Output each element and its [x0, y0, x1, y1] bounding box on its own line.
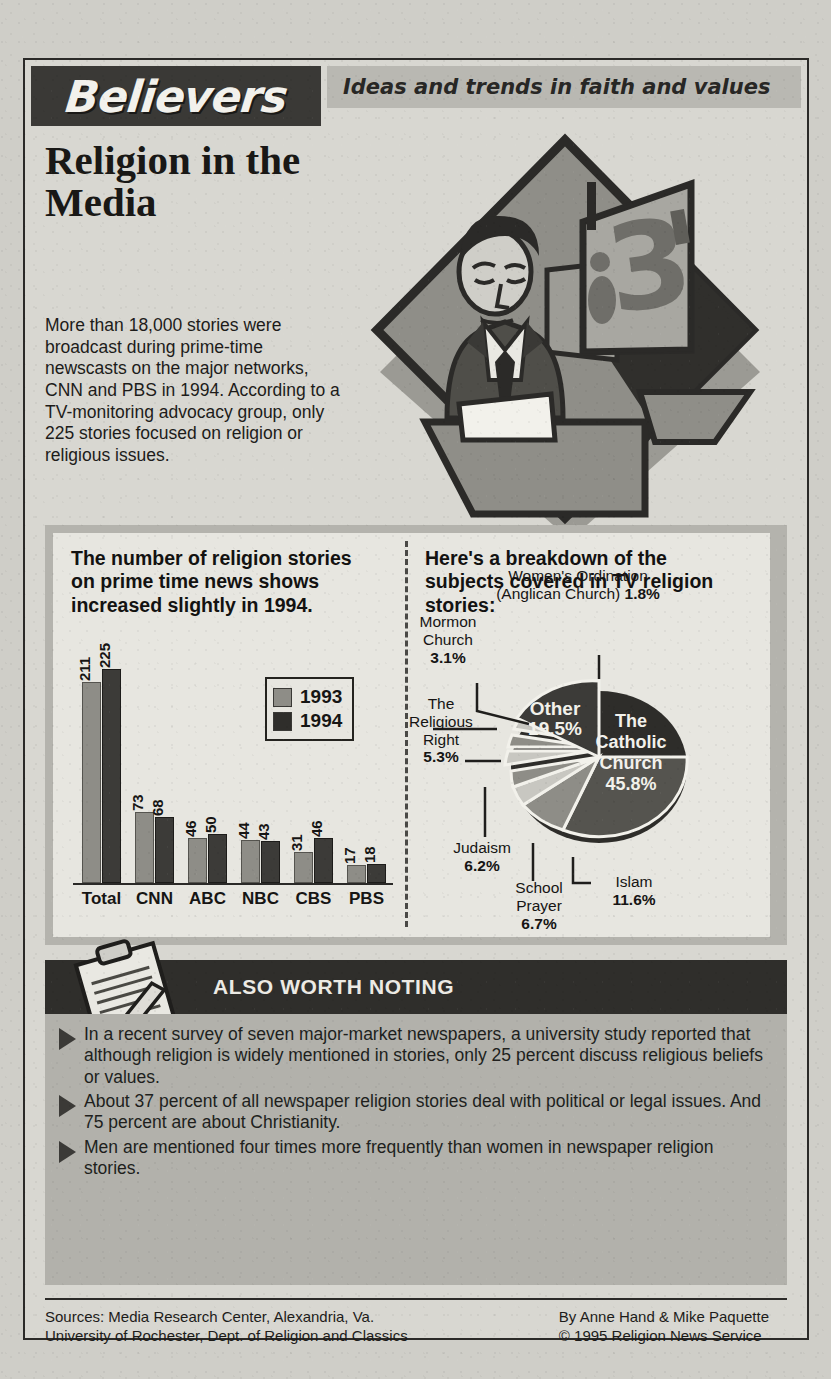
bar-value-1993-nbc: 44 [236, 822, 251, 839]
bar-groups: 211 225 73 68 46 [75, 671, 393, 883]
page-title: Religion in the Media [45, 140, 345, 224]
bar-1993-nbc: 44 [241, 840, 260, 883]
x-label-total: Total [75, 889, 128, 913]
lede-paragraph: More than 18,000 stories were broadcast … [45, 315, 345, 467]
bar-1994-abc: 50 [208, 834, 227, 883]
bar-chart-axis [73, 883, 393, 885]
believers-logo: Believers [31, 66, 321, 126]
x-label-nbc: NBC [234, 889, 287, 913]
bar-group-pbs: 17 18 [340, 864, 393, 883]
pie-label-womens-ordination: Women's Ordination (Anglican Church) 1.8… [453, 567, 703, 603]
copyright: © 1995 Religion News Service [559, 1327, 762, 1344]
masthead-kicker: Ideas and trends in faith and values [327, 66, 801, 108]
pie-label-religious-right: The Religious Right 5.3% [399, 695, 483, 766]
svg-text:19.5%: 19.5% [528, 718, 582, 739]
x-label-cbs: CBS [287, 889, 340, 913]
bar-value-1994-nbc: 43 [256, 823, 271, 840]
bar-1993-total: 211 [82, 682, 101, 883]
triangle-bullet-icon [59, 1095, 76, 1117]
x-label-abc: ABC [181, 889, 234, 913]
masthead: Believers Ideas and trends in faith and … [31, 66, 801, 126]
triangle-bullet-icon [59, 1141, 76, 1163]
bar-1994-cnn: 68 [155, 817, 174, 883]
infographic-page: Believers Ideas and trends in faith and … [0, 0, 831, 1379]
triangle-bullet-icon [59, 1028, 76, 1050]
sources-line-1: Sources: Media Research Center, Alexandr… [45, 1308, 374, 1325]
sources-footer: Sources: Media Research Center, Alexandr… [45, 1298, 787, 1344]
note-text: About 37 percent of all newspaper religi… [84, 1091, 771, 1134]
byline: By Anne Hand & Mike Paquette [559, 1308, 769, 1325]
bar-value-1994-cnn: 68 [150, 799, 165, 816]
bar-1994-total: 225 [102, 669, 121, 883]
bar-group-abc: 46 50 [181, 834, 234, 883]
bar-group-cbs: 31 46 [287, 838, 340, 883]
charts-panel: The number of religion stories on prime … [45, 525, 787, 945]
bar-value-1994-total: 225 [97, 643, 112, 668]
bar-1993-pbs: 17 [347, 865, 366, 883]
bar-1993-cnn: 73 [135, 812, 154, 883]
bar-group-cnn: 73 68 [128, 812, 181, 883]
pie-chart: Other 19.5% The Catholic Church 45.8% Wo… [413, 591, 723, 921]
svg-text:Catholic: Catholic [595, 732, 666, 752]
bar-value-1994-abc: 50 [203, 816, 218, 833]
bar-chart-x-labels: Total CNN ABC NBC CBS PBS [75, 889, 393, 913]
bar-1994-cbs: 46 [314, 838, 333, 883]
pie-label-school-prayer: School Prayer 6.7% [497, 879, 581, 932]
x-label-pbs: PBS [340, 889, 393, 913]
pie-label-mormon-church: Mormon Church 3.1% [405, 613, 491, 666]
bar-1993-abc: 46 [188, 838, 207, 883]
infographic-frame: Believers Ideas and trends in faith and … [23, 58, 809, 1340]
pie-label-islam: Islam 11.6% [589, 873, 679, 909]
bar-value-1994-pbs: 18 [362, 846, 377, 863]
bar-value-1993-pbs: 17 [342, 847, 357, 864]
bar-value-1993-abc: 46 [183, 820, 198, 837]
bar-group-total: 211 225 [75, 669, 128, 883]
bar-1993-cbs: 31 [294, 852, 313, 883]
bar-chart: 1993 1994 211 225 7 [67, 651, 397, 921]
bar-value-1993-total: 211 [77, 657, 92, 681]
bar-value-1993-cnn: 73 [130, 794, 145, 811]
x-label-cnn: CNN [128, 889, 181, 913]
believers-logo-text: Believers [63, 71, 289, 122]
svg-text:45.8%: 45.8% [605, 774, 656, 794]
svg-text:Other: Other [530, 698, 581, 719]
sources-line-2: University of Rochester, Dept. of Religi… [45, 1327, 408, 1344]
bar-group-nbc: 44 43 [234, 840, 287, 883]
bar-1994-nbc: 43 [261, 841, 280, 883]
note-item: About 37 percent of all newspaper religi… [59, 1091, 771, 1134]
sources-left: Sources: Media Research Center, Alexandr… [45, 1307, 408, 1344]
bar-value-1993-cbs: 31 [289, 834, 304, 851]
note-item: Men are mentioned four times more freque… [59, 1137, 771, 1180]
bar-chart-title: The number of religion stories on prime … [71, 547, 371, 617]
svg-text:Church: Church [600, 753, 663, 773]
pie-label-judaism: Judaism 6.2% [427, 839, 537, 875]
sources-right: By Anne Hand & Mike Paquette © 1995 Reli… [559, 1307, 787, 1344]
masthead-kicker-text: Ideas and trends in faith and values [343, 75, 770, 99]
bar-1994-pbs: 18 [367, 864, 386, 883]
also-worth-noting-title: ALSO WORTH NOTING [213, 975, 454, 999]
bar-value-1994-cbs: 46 [309, 820, 324, 837]
news-anchor-tv-illustration: 3 [355, 122, 795, 542]
note-item: In a recent survey of seven major-market… [59, 1024, 771, 1088]
also-worth-noting-section: ALSO WORTH NOTING I [45, 960, 787, 1285]
note-text: In a recent survey of seven major-market… [84, 1024, 771, 1088]
svg-text:The: The [615, 711, 647, 731]
note-text: Men are mentioned four times more freque… [84, 1137, 771, 1180]
also-worth-noting-notes: In a recent survey of seven major-market… [45, 1014, 787, 1285]
